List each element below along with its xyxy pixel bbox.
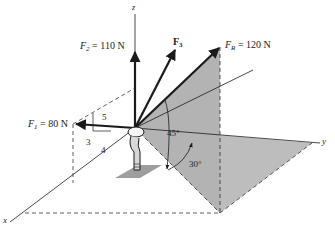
slope-run-label: 4 — [101, 146, 106, 155]
f2-label: F2 = 110 N — [80, 41, 125, 53]
x-axis — [10, 128, 135, 222]
y-axis-label: y — [322, 137, 326, 146]
f1-magnitude: = 80 N — [38, 118, 68, 129]
f2-magnitude: = 110 N — [90, 40, 125, 51]
angle-45-label: 45° — [167, 129, 180, 138]
f3-subscript: 3 — [179, 41, 183, 49]
force-diagram — [0, 0, 335, 233]
fr-label: FR = 120 N — [225, 40, 271, 52]
f1-label: F1 = 80 N — [28, 119, 68, 131]
slope-rise-label: 3 — [86, 138, 91, 147]
angle-30-label: 30° — [189, 160, 202, 169]
f1-vector — [76, 124, 135, 128]
slope-hyp-label: 5 — [102, 113, 107, 122]
fr-magnitude: = 120 N — [235, 39, 270, 50]
z-axis-label: z — [132, 4, 135, 12]
eyebolt-hook — [128, 127, 144, 170]
x-axis-label: x — [3, 216, 7, 225]
f3-label: F3 — [173, 37, 183, 49]
